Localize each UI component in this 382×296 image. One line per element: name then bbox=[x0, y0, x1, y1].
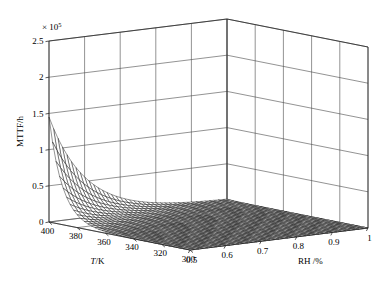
x-tick-label: 380 bbox=[69, 231, 83, 241]
y-tick-label: 0.6 bbox=[221, 250, 233, 260]
z-tick-label: 2.5 bbox=[32, 36, 44, 46]
z-axis-exponent-label: × 105 bbox=[42, 21, 62, 32]
z-axis-title: MTTF/h bbox=[15, 116, 25, 148]
x-axis-title: T/K bbox=[90, 256, 105, 266]
surface-mesh bbox=[49, 117, 368, 250]
z-tick-label: 0.5 bbox=[32, 181, 44, 191]
z-tick-label: 1 bbox=[39, 145, 44, 155]
y-axis-title: RH /% bbox=[298, 256, 323, 266]
y-tick-label: 0.9 bbox=[328, 237, 340, 247]
y-tick-label: 0.5 bbox=[186, 255, 198, 265]
plot-canvas: 00.511.522.54003803603403203000.50.60.70… bbox=[0, 0, 382, 296]
figure-3d-surface-plot: 00.511.522.54003803603403203000.50.60.70… bbox=[0, 0, 382, 296]
y-tick-label: 0.7 bbox=[257, 246, 269, 256]
z-tick-label: 2 bbox=[39, 72, 44, 82]
z-tick-label: 1.5 bbox=[32, 109, 44, 119]
x-tick-label: 360 bbox=[97, 237, 111, 247]
y-tick-label: 1 bbox=[367, 233, 372, 243]
y-tick-label: 0.8 bbox=[293, 241, 305, 251]
x-tick-label: 340 bbox=[125, 242, 139, 252]
x-tick-label: 320 bbox=[154, 248, 168, 258]
x-tick-label: 400 bbox=[41, 226, 55, 236]
